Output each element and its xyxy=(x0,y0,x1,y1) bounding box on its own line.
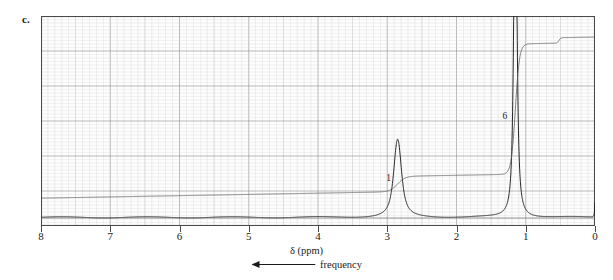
x-tick-mark xyxy=(41,226,42,232)
x-tick-mark xyxy=(526,226,527,232)
x-tick-mark xyxy=(595,226,596,232)
x-tick-mark xyxy=(110,226,111,232)
x-axis-title: δ (ppm) xyxy=(290,245,323,256)
spectrum-plot xyxy=(41,16,595,226)
frequency-label: frequency xyxy=(320,259,362,270)
nmr-figure: c. 876543210 16 δ (ppm) frequency xyxy=(0,0,613,280)
frequency-direction: frequency xyxy=(251,259,362,270)
spectrum-traces xyxy=(41,16,595,226)
x-tick-mark xyxy=(180,226,181,232)
left-arrow-icon xyxy=(251,259,315,270)
x-tick-mark xyxy=(318,226,319,232)
integration-value-6: 6 xyxy=(503,111,508,121)
x-tick-mark xyxy=(457,226,458,232)
x-tick-mark xyxy=(387,226,388,232)
panel-label: c. xyxy=(22,13,30,25)
x-tick-mark xyxy=(249,226,250,232)
integration-value-1: 1 xyxy=(386,173,391,183)
